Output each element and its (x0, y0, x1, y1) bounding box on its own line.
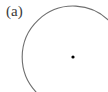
circle-arc (22, 6, 108, 92)
center-point (71, 55, 74, 58)
circle-diagram (0, 0, 108, 92)
